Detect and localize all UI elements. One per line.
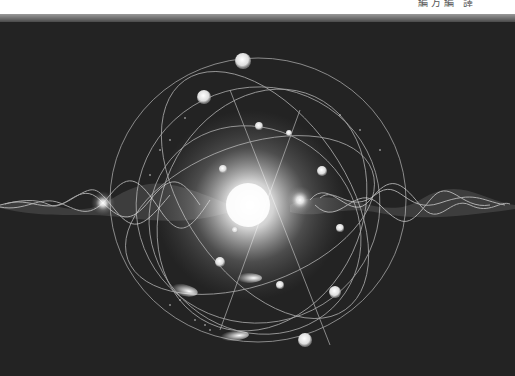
quantum-art xyxy=(0,14,515,376)
running-head: 編方編 譯 xyxy=(418,0,476,9)
quantum-illustration xyxy=(0,14,515,376)
